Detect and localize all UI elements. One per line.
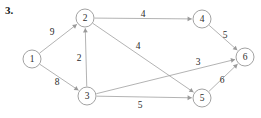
graph-node-2[interactable]: 2 <box>76 9 94 27</box>
edge-weight-2-4: 4 <box>141 9 146 19</box>
edge-weight-1-2: 9 <box>50 27 55 37</box>
arrowhead-3-to-5 <box>188 95 192 100</box>
edge-3-to-5 <box>97 96 192 98</box>
edge-weight-3-5: 5 <box>138 100 143 110</box>
arrowhead-2-to-5 <box>189 88 194 92</box>
nodes-group: 123456 <box>23 9 254 107</box>
node-label-3: 3 <box>85 91 90 101</box>
edges-group <box>40 16 238 100</box>
graph-node-6[interactable]: 6 <box>236 48 254 66</box>
edge-weight-2-5: 4 <box>136 41 141 51</box>
arrowhead-1-to-3 <box>74 86 79 90</box>
edge-weight-5-6: 6 <box>220 75 225 85</box>
arrowhead-3-to-2 <box>83 28 88 32</box>
edge-3-to-6 <box>96 59 235 93</box>
edge-3-to-2 <box>85 28 86 86</box>
edge-weight-4-6: 5 <box>223 30 228 40</box>
node-label-4: 4 <box>200 14 205 24</box>
edge-weight-1-3: 8 <box>55 77 60 87</box>
figure-canvas: 3. 982443556 123456 <box>0 0 261 118</box>
edge-weight-3-2: 2 <box>77 53 82 63</box>
directed-weighted-graph: 982443556 123456 <box>0 0 261 118</box>
edge-1-to-2 <box>40 24 77 53</box>
node-label-2: 2 <box>83 13 88 23</box>
graph-node-3[interactable]: 3 <box>78 87 96 105</box>
graph-node-4[interactable]: 4 <box>193 10 211 28</box>
arrowhead-2-to-4 <box>188 16 192 21</box>
arrowhead-3-to-6 <box>230 58 235 63</box>
edge-weight-3-6: 3 <box>196 57 201 67</box>
node-label-6: 6 <box>243 52 248 62</box>
node-label-1: 1 <box>30 54 35 64</box>
node-label-5: 5 <box>200 93 205 103</box>
arrowhead-1-to-2 <box>72 24 77 28</box>
graph-node-1[interactable]: 1 <box>23 50 41 68</box>
graph-node-5[interactable]: 5 <box>193 89 211 107</box>
